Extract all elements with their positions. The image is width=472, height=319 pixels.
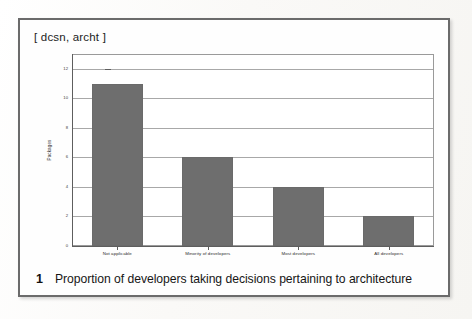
y-axis-title: Packages [47,140,52,161]
y-tick-label: 10 [63,96,72,100]
x-tick-label: Most developers [281,252,315,256]
caption-number: 1 [36,272,43,286]
x-tick-mark [389,246,390,250]
figure-page: [ dcsn, archt ] Packages 024681012 Not a… [0,0,472,319]
x-tick-mark [298,246,299,250]
caption-text: Proportion of developers taking decision… [55,272,412,286]
x-tick-mark [208,246,209,250]
y-tick-mark [105,246,111,247]
x-tick-label: Minority of developers [185,252,230,256]
figure-border-box: [ dcsn, archt ] Packages 024681012 Not a… [18,18,450,297]
x-axis-ticks: Not applicableMinority of developersMost… [72,54,434,246]
x-tick-label: Not applicable [103,252,132,256]
y-tick-label: 12 [63,67,72,71]
x-axis-line [72,246,434,247]
figure-header-tag: [ dcsn, archt ] [34,31,106,43]
x-tick-label: All developers [374,252,403,256]
figure-caption: 1 Proportion of developers taking decisi… [36,272,436,286]
bar-chart: Packages 024681012 Not applicableMinorit… [34,54,438,258]
x-tick-mark [117,246,118,250]
